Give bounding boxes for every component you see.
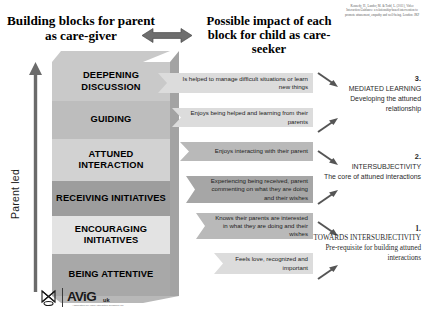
annotation-heading: INTERSUBJECTIVITY xyxy=(315,162,421,172)
logo-suffix: uk xyxy=(103,297,110,303)
callout-text: Knows their parents are interested in wh… xyxy=(213,214,308,238)
logo-name: AViG xyxy=(67,289,96,304)
annotation-mediated-learning: 3. MEDIATED LEARNING Developing the attu… xyxy=(315,74,421,113)
stack-top-cap xyxy=(52,51,170,62)
annotation-number: 2. xyxy=(315,152,421,162)
callout-text: Experiencing being received, parent comm… xyxy=(203,177,308,201)
annotation-intersubjectivity: 2. INTERSUBJECTIVITY The core of attuned… xyxy=(315,152,421,182)
block-encouraging-initiatives[interactable]: ENCOURAGING INITIATIVES xyxy=(52,216,170,254)
logo-divider xyxy=(62,288,63,307)
callout-text: Is helped to manage difficult situations… xyxy=(175,75,308,91)
block-label: ATTUNED INTERACTION xyxy=(52,139,170,181)
callout-text: Enjoys being helped and learning from th… xyxy=(189,109,308,125)
callout-deepening-discussion: Is helped to manage difficult situations… xyxy=(158,73,313,93)
double-headed-horizontal-arrow-icon xyxy=(142,28,192,43)
annotation-heading: MEDIATED LEARNING xyxy=(315,84,421,94)
logo-subtitle: Association for Video Interaction Guidan… xyxy=(67,304,129,307)
avig-uk-logo: AViG uk Association for Video Interactio… xyxy=(40,288,130,314)
callout-attuned-interaction: Enjoys interacting with their parent xyxy=(180,142,313,161)
header-right-title: Possible impact of each block for child … xyxy=(200,14,338,56)
butterfly-mark-icon xyxy=(40,289,57,306)
header-left-title: Building blocks for parent as care-giver xyxy=(6,14,156,44)
block-receiving-initiatives[interactable]: RECEIVING INITIATIVES xyxy=(52,181,170,216)
citation-text: Kennedy, H., Landor, M. & Todd, L. (2011… xyxy=(344,4,420,17)
callout-being-attentive: Feels love, recognized and important xyxy=(214,253,313,274)
diagram-canvas: Building blocks for parent as care-giver… xyxy=(0,0,426,318)
block-label: ENCOURAGING INITIATIVES xyxy=(52,216,170,254)
parent-led-up-arrow-icon xyxy=(28,62,43,292)
arrow-up-right-icon-3 xyxy=(317,117,339,133)
callout-text: Feels love, recognized and important xyxy=(231,255,308,271)
axis-label-parent-led: Parent led xyxy=(9,146,21,242)
block-label: RECEIVING INITIATIVES xyxy=(52,181,170,216)
annotation-body: Developing the attuned relationship xyxy=(315,94,421,113)
block-label: DEEPENING DISCUSSION xyxy=(52,62,170,101)
block-deepening-discussion[interactable]: DEEPENING DISCUSSION xyxy=(52,62,170,101)
callout-text: Enjoys interacting with their parent xyxy=(197,147,308,155)
annotation-body: The core of attuned interactions xyxy=(315,172,421,182)
annotation-number: 1. xyxy=(309,224,421,234)
arrow-up-right-icon-2 xyxy=(317,189,339,205)
callout-encouraging-initiatives: Knows their parents are interested in wh… xyxy=(196,213,313,239)
block-guiding[interactable]: GUIDING xyxy=(52,101,170,139)
callout-guiding: Enjoys being helped and learning from th… xyxy=(172,108,313,127)
annotation-body: Pre-requisite for building attuned inter… xyxy=(309,244,421,264)
callout-receiving-initiatives: Experiencing being received, parent comm… xyxy=(186,176,313,203)
annotation-heading: TOWARDS INTERSUBJECTIVITY xyxy=(309,234,421,244)
annotation-number: 3. xyxy=(315,74,421,84)
block-label: GUIDING xyxy=(52,101,170,139)
block-attuned-interaction[interactable]: ATTUNED INTERACTION xyxy=(52,139,170,181)
building-blocks-stack: DEEPENING DISCUSSION GUIDING ATTUNED INT… xyxy=(52,62,178,296)
arrow-up-right-icon-1 xyxy=(317,264,339,280)
annotation-towards-intersubjectivity: 1. TOWARDS INTERSUBJECTIVITY Pre-requisi… xyxy=(309,224,421,264)
